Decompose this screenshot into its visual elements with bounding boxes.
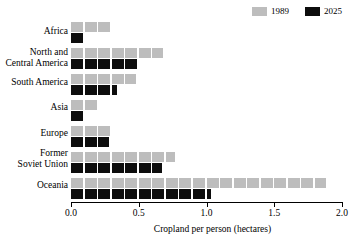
bar-segments	[71, 33, 85, 43]
bar-row	[71, 74, 342, 97]
category-label-oceania: Oceania	[2, 180, 68, 191]
bar-2025	[71, 85, 117, 95]
bar-2025	[71, 59, 137, 69]
bar-segments	[71, 152, 175, 162]
x-tick	[342, 202, 343, 207]
legend-swatch-2025	[305, 7, 320, 16]
bar-1989	[71, 178, 326, 188]
category-axis-labels: Africa North and Central America South A…	[0, 20, 68, 203]
bar-2025	[71, 163, 162, 173]
bar-segments	[71, 111, 83, 121]
bar-2025	[71, 33, 85, 43]
x-tick	[207, 202, 208, 207]
category-label-former-soviet-union: Former Soviet Union	[2, 148, 68, 169]
bar-segments	[71, 74, 136, 84]
bar-segments	[71, 178, 326, 188]
x-tick-label: 0.0	[65, 208, 77, 219]
category-label-south-america: South America	[2, 77, 68, 88]
chart-legend: 1989 2025	[252, 5, 342, 17]
bar-1989	[71, 74, 136, 84]
legend-label-2025: 2025	[324, 7, 342, 16]
x-tick	[71, 202, 72, 207]
bar-1989	[71, 100, 97, 110]
x-tick	[139, 202, 140, 207]
bar-segments	[71, 100, 97, 110]
bar-row	[71, 22, 342, 45]
x-tick-label: 1.5	[268, 208, 280, 219]
bar-segments	[71, 85, 117, 95]
bar-segments	[71, 163, 162, 173]
bar-1989	[71, 22, 110, 32]
category-label-asia: Asia	[2, 102, 68, 113]
category-label-europe: Europe	[2, 128, 68, 139]
x-tick-label: 1.0	[201, 208, 213, 219]
cropland-per-person-chart: 1989 2025 Africa North and Central Ameri…	[0, 0, 361, 242]
category-label-africa: Africa	[2, 26, 68, 37]
x-axis-title: Cropland per person (hectares)	[0, 224, 361, 235]
x-axis-title-text: Cropland per person (hectares)	[90, 224, 271, 234]
category-label-north-and-central-america: North and Central America	[2, 47, 68, 68]
x-tick-label: 0.5	[133, 208, 145, 219]
bar-row	[71, 152, 342, 175]
legend-entry-1989: 1989	[252, 7, 289, 16]
legend-entry-2025: 2025	[305, 7, 342, 16]
plot-area	[71, 20, 342, 203]
bar-row	[71, 126, 342, 149]
bar-segments	[71, 137, 109, 147]
legend-swatch-1989	[252, 7, 267, 16]
bar-segments	[71, 59, 137, 69]
x-tick	[274, 202, 275, 207]
bar-row	[71, 100, 342, 123]
bar-row	[71, 178, 342, 201]
x-tick-label: 2.0	[336, 208, 348, 219]
bar-2025	[71, 189, 211, 199]
bar-1989	[71, 152, 175, 162]
bar-segments	[71, 48, 163, 58]
bar-segments	[71, 189, 211, 199]
legend-label-1989: 1989	[271, 7, 289, 16]
bar-1989	[71, 126, 110, 136]
bar-2025	[71, 111, 83, 121]
bar-2025	[71, 137, 109, 147]
bar-1989	[71, 48, 163, 58]
bar-segments	[71, 22, 110, 32]
bar-segments	[71, 126, 110, 136]
bar-row	[71, 48, 342, 71]
